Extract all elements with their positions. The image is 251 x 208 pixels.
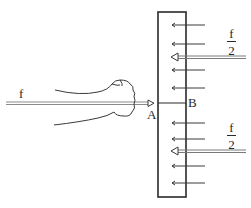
arrow-left-icon <box>172 137 205 141</box>
arrow-left-icon <box>172 121 205 125</box>
fraction-numerator: f <box>229 27 233 40</box>
arrow-left-icon <box>172 42 205 46</box>
applied-force-arrow <box>6 100 154 107</box>
point-b-label: B <box>188 96 197 109</box>
reaction-label-bottom: f 2 <box>227 121 236 151</box>
arrow-left-icon <box>172 86 205 90</box>
arrow-left-icon <box>172 68 205 72</box>
arrow-left-icon <box>172 164 205 168</box>
point-a-label: A <box>147 108 156 121</box>
reaction-label-top: f 2 <box>227 27 236 57</box>
fraction-bar <box>227 41 236 42</box>
board <box>158 12 186 197</box>
arrow-left-icon <box>172 181 205 185</box>
fraction-bar <box>227 135 236 136</box>
arrow-left-icon <box>172 23 205 27</box>
fraction-numerator: f <box>229 121 233 134</box>
fraction-denominator: 2 <box>228 138 235 151</box>
force-label-f: f <box>19 87 23 100</box>
force-diagram <box>0 0 251 208</box>
fraction-denominator: 2 <box>228 44 235 57</box>
